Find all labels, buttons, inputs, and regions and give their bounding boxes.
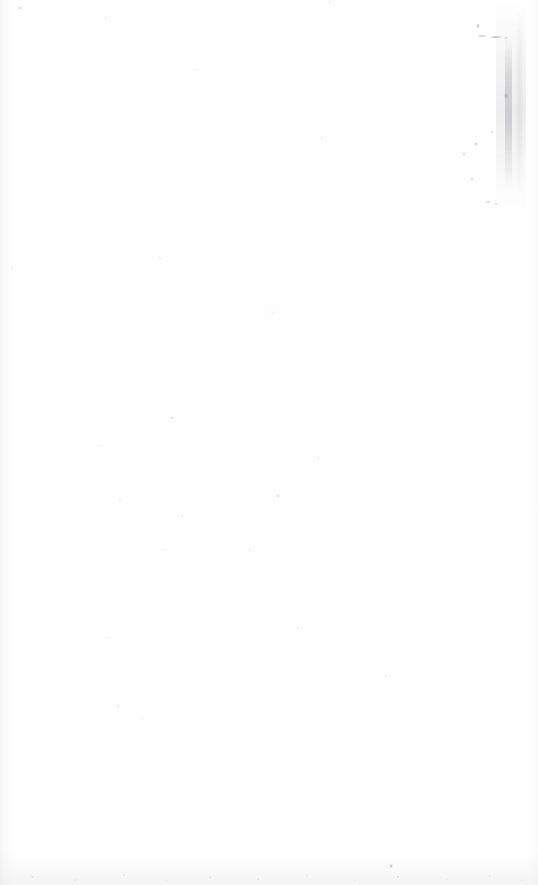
- scanned-page: [0, 0, 538, 885]
- page-text-content: [0, 0, 538, 885]
